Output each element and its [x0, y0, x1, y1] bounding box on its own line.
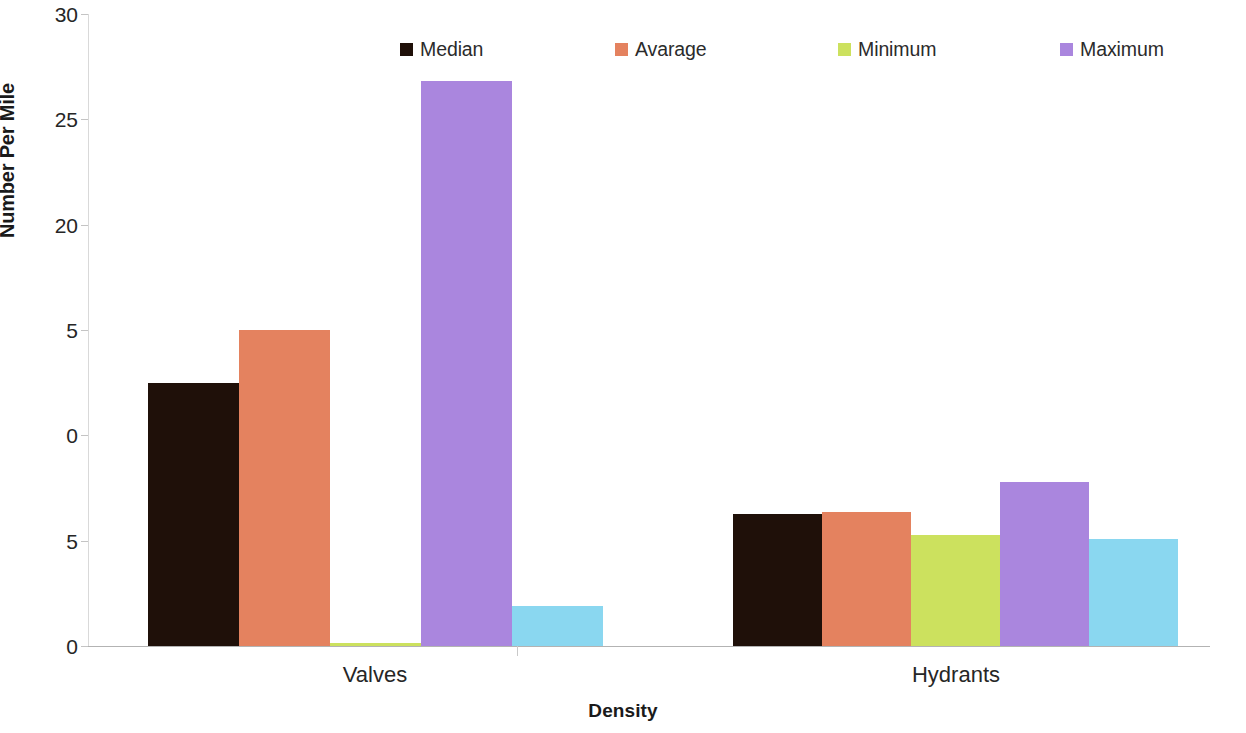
value-axis-tick — [81, 330, 88, 331]
bar[interactable] — [733, 514, 822, 646]
value-axis-tick-label: 20 — [55, 215, 78, 236]
bar[interactable] — [330, 643, 421, 646]
category-axis-title: Density — [0, 700, 1246, 722]
bar[interactable] — [822, 512, 911, 646]
value-axis-tick — [81, 541, 88, 542]
category-axis-line — [88, 646, 1210, 647]
value-axis-line — [88, 14, 89, 646]
value-axis-tick — [81, 119, 88, 120]
value-axis-tick — [81, 435, 88, 436]
bar[interactable] — [1000, 482, 1089, 646]
plot-area — [88, 14, 1210, 646]
bar[interactable] — [911, 535, 1000, 646]
value-axis-title: Number Per Mile — [0, 83, 19, 238]
category-separator-tick — [517, 646, 518, 656]
bar[interactable] — [148, 383, 239, 646]
value-axis-tick-label: 5 — [66, 320, 78, 341]
category-axis-label: Hydrants — [856, 662, 1056, 688]
bar[interactable] — [512, 606, 603, 646]
value-axis-tick-label: 0 — [66, 636, 78, 657]
value-axis-tick-label: 30 — [55, 4, 78, 25]
bar[interactable] — [421, 81, 512, 646]
bar[interactable] — [1089, 539, 1178, 646]
value-axis-tick — [81, 225, 88, 226]
value-axis-tick — [81, 646, 88, 647]
bar[interactable] — [239, 330, 330, 646]
category-axis-label: Valves — [275, 662, 475, 688]
bar-chart: MedianAvarageMinimumMaximumValue in Tabr… — [0, 0, 1246, 733]
value-axis-tick-label: 25 — [55, 109, 78, 130]
value-axis-tick-label: 0 — [66, 425, 78, 446]
value-axis-tick-label: 5 — [66, 531, 78, 552]
value-axis-tick — [81, 14, 88, 15]
